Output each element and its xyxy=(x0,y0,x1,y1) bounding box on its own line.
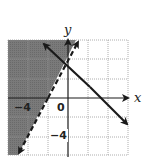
x-tick-label-neg4: −4 xyxy=(14,101,31,114)
y-axis-label: y xyxy=(64,22,71,37)
coordinate-plane xyxy=(0,0,158,163)
y-tick-label-neg4: −4 xyxy=(49,129,68,142)
solid-boundary-line-lower xyxy=(90,87,127,124)
x-axis-label: x xyxy=(134,90,141,105)
origin-label: 0 xyxy=(57,101,65,114)
